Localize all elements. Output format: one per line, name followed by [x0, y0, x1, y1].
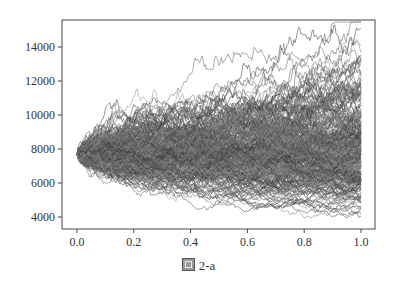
y-tick-label: 6000 — [31, 176, 55, 190]
x-tick-label: 0.6 — [240, 235, 255, 249]
x-axis: 0.00.20.40.60.81.0 — [70, 229, 369, 249]
caption-label: 2-a — [199, 258, 216, 273]
y-tick-label: 14000 — [25, 40, 55, 54]
x-tick-label: 1.0 — [354, 235, 369, 249]
simulation-paths — [77, 22, 361, 218]
y-tick-label: 12000 — [25, 74, 55, 88]
x-tick-label: 0.4 — [183, 235, 198, 249]
x-tick-label: 0.0 — [70, 235, 85, 249]
figure-caption: 2-a — [0, 258, 397, 274]
price-paths-chart: 400060008000100001200014000 0.00.20.40.6… — [0, 0, 397, 288]
figure-char-icon — [182, 258, 195, 271]
y-axis: 400060008000100001200014000 — [25, 40, 62, 224]
x-tick-label: 0.8 — [297, 235, 312, 249]
y-tick-label: 10000 — [25, 108, 55, 122]
x-tick-label: 0.2 — [126, 235, 141, 249]
y-tick-label: 4000 — [31, 210, 55, 224]
y-tick-label: 8000 — [31, 142, 55, 156]
